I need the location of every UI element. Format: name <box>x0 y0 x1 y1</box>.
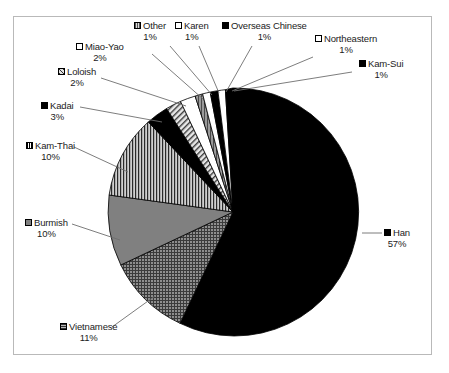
slice-label-overseas-chinese[interactable]: Overseas Chinese 1% <box>222 20 307 42</box>
leader-line-overseas-chinese <box>226 46 252 92</box>
slice-label-miao-yao[interactable]: Miao-Yao 2% <box>76 41 124 63</box>
slice-label-han[interactable]: Han 57% <box>384 227 410 249</box>
leader-line-kam-sui <box>234 72 352 91</box>
slice-label-kam-thai[interactable]: Kam-Thai 10% <box>26 140 75 162</box>
slice-label-other[interactable]: Other 1% <box>134 20 166 42</box>
slice-label-loloish[interactable]: Loloish 2% <box>58 66 96 88</box>
kam-thai-label-text: Kam-Thai <box>35 140 75 151</box>
northeastern-label-pct: 1% <box>315 44 377 55</box>
pie-chart-page: Han 57% Vietnamese 11% Burmish 10% Kam-T… <box>0 0 449 373</box>
han-swatch-icon <box>384 229 391 236</box>
northeastern-swatch-icon <box>315 35 322 42</box>
kadai-swatch-icon <box>41 102 48 109</box>
other-label-text: Other <box>143 20 166 31</box>
burmish-label-text: Burmish <box>34 217 68 228</box>
karen-label-text: Karen <box>184 20 209 31</box>
miao-yao-swatch-icon <box>76 43 83 50</box>
overseas-chinese-swatch-icon <box>222 22 229 29</box>
miao-yao-label-text: Miao-Yao <box>85 41 124 52</box>
kam-sui-label-pct: 1% <box>359 69 403 80</box>
kam-thai-label-pct: 10% <box>26 151 75 162</box>
slice-label-karen[interactable]: Karen 1% <box>175 20 209 42</box>
leader-line-miao-yao <box>152 54 203 99</box>
overseas-chinese-label-text: Overseas Chinese <box>231 20 307 31</box>
slice-label-vietnamese[interactable]: Vietnamese 11% <box>60 321 118 343</box>
leader-line-other <box>170 46 212 95</box>
overseas-chinese-label-pct: 1% <box>222 31 307 42</box>
slice-label-kadai[interactable]: Kadai 3% <box>41 100 74 122</box>
slice-label-kam-sui[interactable]: Kam-Sui 1% <box>359 58 403 80</box>
han-label-text: Han <box>393 227 410 238</box>
slice-label-northeastern[interactable]: Northeastern 1% <box>315 33 377 55</box>
han-label-pct: 57% <box>384 238 410 249</box>
kadai-label-pct: 3% <box>41 111 74 122</box>
burmish-swatch-icon <box>25 219 32 226</box>
kam-sui-swatch-icon <box>359 60 366 67</box>
northeastern-label-text: Northeastern <box>324 33 377 44</box>
kadai-label-text: Kadai <box>50 100 74 111</box>
leader-line-vietnamese <box>112 296 155 327</box>
leader-line-northeastern <box>232 57 313 91</box>
karen-label-pct: 1% <box>175 31 209 42</box>
pie-chart-graphic <box>0 0 449 373</box>
kam-sui-label-text: Kam-Sui <box>368 58 403 69</box>
slice-label-burmish[interactable]: Burmish 10% <box>25 217 68 239</box>
karen-swatch-icon <box>175 22 182 29</box>
leader-line-karen <box>199 46 219 93</box>
kam-thai-swatch-icon <box>26 142 33 149</box>
vietnamese-swatch-icon <box>60 323 67 330</box>
miao-yao-label-pct: 2% <box>76 52 124 63</box>
other-label-pct: 1% <box>134 31 166 42</box>
leader-line-loloish <box>101 78 186 106</box>
loloish-label-pct: 2% <box>58 77 96 88</box>
vietnamese-label-pct: 11% <box>60 332 118 343</box>
other-swatch-icon <box>134 22 141 29</box>
burmish-label-pct: 10% <box>25 228 68 239</box>
leader-line-kadai <box>80 107 162 122</box>
loloish-swatch-icon <box>58 68 65 75</box>
loloish-label-text: Loloish <box>67 66 96 77</box>
vietnamese-label-text: Vietnamese <box>69 321 118 332</box>
